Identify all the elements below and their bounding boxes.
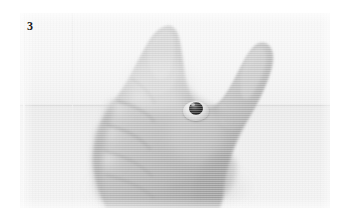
stud-highlight	[191, 103, 195, 106]
hand-photo	[20, 13, 330, 208]
figure-page: 3	[0, 0, 338, 223]
figure-number-label: 3	[27, 20, 33, 32]
photographic-plate	[20, 13, 330, 208]
hand-illustration	[20, 13, 330, 208]
